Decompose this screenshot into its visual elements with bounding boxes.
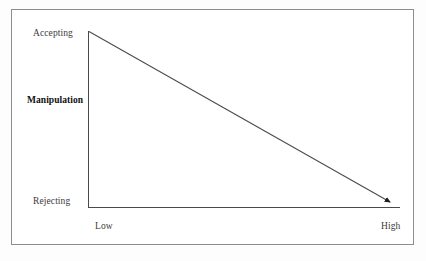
caption-clipped-row — [0, 251, 426, 261]
y-axis-top-label: Accepting — [33, 28, 73, 39]
x-axis-right-label: High — [381, 221, 400, 232]
x-axis-left-label: Low — [95, 221, 113, 232]
figure-border — [11, 9, 414, 245]
y-axis-title: Manipulation — [27, 95, 83, 106]
y-axis-bottom-label: Rejecting — [33, 196, 70, 207]
figure-root: Accepting Manipulation Rejecting Low Hig… — [0, 0, 426, 261]
